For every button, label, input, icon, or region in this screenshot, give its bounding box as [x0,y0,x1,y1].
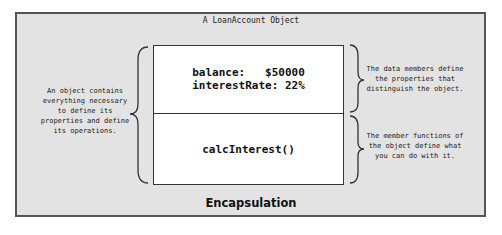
annotation-line: The member functions of [350,131,480,141]
diagram-title: A LoanAccount Object [0,16,502,25]
data-member-balance: balance: $50000 [192,66,305,79]
annotation-line: its operations. [26,126,144,136]
annotation-data-members: The data members define the properties t… [350,64,480,94]
annotation-line: The data members define [350,64,480,74]
annotation-left: An object contains everything necessary … [26,86,144,136]
member-function: calcInterest() [154,143,343,156]
annotation-line: everything necessary [26,96,144,106]
annotation-member-functions: The member functions of the object defin… [350,131,480,161]
annotation-line: you can do with it. [350,151,480,161]
annotation-line: properties and define [26,116,144,126]
diagram-caption: Encapsulation [0,196,502,210]
annotation-line: the properties that [350,74,480,84]
annotation-line: distinguish the object. [350,84,480,94]
section-divider [154,113,343,114]
annotation-line: An object contains [26,86,144,96]
annotation-line: to define its [26,106,144,116]
data-members: balance: $50000 interestRate: 22% [154,66,343,92]
object-box: balance: $50000 interestRate: 22% calcIn… [153,45,344,185]
data-member-interest-rate: interestRate: 22% [192,79,305,92]
annotation-line: the object define what [350,141,480,151]
